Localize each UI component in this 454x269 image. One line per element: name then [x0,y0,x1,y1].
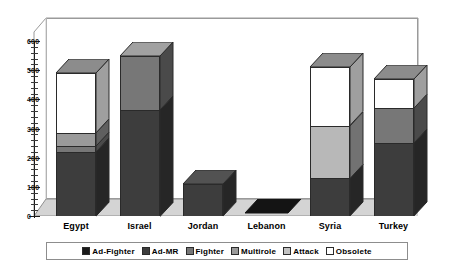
legend-swatch-icon [82,247,90,255]
legend-label: Ad-MR [152,247,179,256]
legend-item-ad-fighter[interactable]: Ad-Fighter [82,247,134,256]
y-tick-minor [31,210,38,211]
bar-top-face [56,59,110,74]
x-axis-label-syria: Syria [296,221,364,231]
y-tick-minor [31,204,38,205]
bar-segment [310,67,350,125]
y-tick-minor [31,123,38,124]
y-tick-minor [31,175,38,176]
x-axis-label-jordan: Jordan [169,221,237,231]
bar-segment-side [160,96,174,217]
legend-item-ad-mr[interactable]: Ad-MR [142,247,179,256]
y-tick-minor [31,152,38,153]
y-tick-minor [31,88,38,89]
y-tick-minor [31,199,38,200]
bar-segment [374,108,414,143]
bar-top-face [183,170,237,185]
y-tick-minor [31,134,38,135]
y-tick-minor [31,94,38,95]
bar-segment [56,152,96,216]
chart-legend: Ad-FighterAd-MRFighterMultiroleAttackObs… [46,242,408,260]
bar-top-face [120,42,174,57]
legend-label: Fighter [196,247,225,256]
y-tick-minor [31,146,38,147]
y-tick-minor [31,111,38,112]
bar-segment [310,126,350,179]
legend-item-obsolete[interactable]: Obsolete [326,247,372,256]
bar-top-face [310,53,364,68]
legend-swatch-icon [186,247,194,255]
legend-swatch-icon [142,247,150,255]
bar-segment [183,184,223,216]
bar-top-face [374,65,428,80]
y-tick-minor [31,76,38,77]
legend-label: Ad-Fighter [92,247,134,256]
bar-segment [310,178,350,216]
legend-item-fighter[interactable]: Fighter [186,247,225,256]
y-tick-minor [31,181,38,182]
legend-label: Attack [293,247,319,256]
legend-item-attack[interactable]: Attack [283,247,319,256]
bar-segment [374,79,414,108]
bar-segment [56,73,96,133]
y-tick-minor [31,82,38,83]
y-tick-minor [31,53,38,54]
x-axis-label-israel: Israel [106,221,174,231]
bar-segment [120,56,160,110]
legend-swatch-icon [283,247,291,255]
legend-swatch-icon [231,247,239,255]
y-tick-minor [31,193,38,194]
x-axis-label-turkey: Turkey [360,221,428,231]
chart-canvas: 6005004003002001000 EgyptIsraelJordanLeb… [0,0,454,269]
bar-segment [374,143,414,216]
x-axis-label-lebanon: Lebanon [233,221,301,231]
x-axis-label-egypt: Egypt [42,221,110,231]
y-tick-minor [31,105,38,106]
y-tick-minor [31,169,38,170]
legend-swatch-icon [326,247,334,255]
legend-item-multirole[interactable]: Multirole [231,247,276,256]
legend-label: Obsolete [336,247,372,256]
y-tick-minor [31,117,38,118]
legend-label: Multirole [241,247,276,256]
bar-segment [120,110,160,216]
bar-segment [56,146,96,152]
y-tick-minor [31,59,38,60]
bar-segment [56,133,96,146]
y-tick-minor [31,64,38,65]
y-tick-minor [31,47,38,48]
bar-zero-footprint [245,199,303,219]
y-tick-minor [31,164,38,165]
y-tick-minor [31,140,38,141]
